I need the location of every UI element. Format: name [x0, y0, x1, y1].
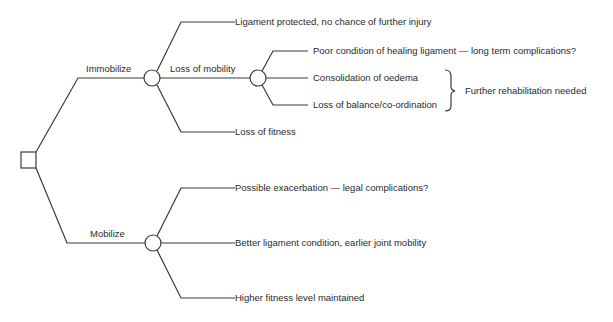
label-further-rehabilitation: Further rehabilitation needed [465, 85, 586, 96]
branch-immobilize [36, 78, 144, 152]
chance-node-immobilize [144, 70, 160, 86]
label-better-ligament: Better ligament condition, earlier joint… [235, 237, 426, 248]
label-exacerbation: Possible exacerbation — legal complicati… [235, 182, 428, 193]
chance-node-loss-of-mobility [250, 70, 266, 86]
label-higher-fitness: Higher fitness level maintained [235, 292, 364, 303]
label-ligament-protected: Ligament protected, no chance of further… [235, 16, 431, 27]
branch-exacerbation [157, 188, 235, 236]
decision-node [21, 152, 36, 168]
branch-loss-of-balance [262, 85, 308, 105]
label-loss-of-balance: Loss of balance/co-ordination [313, 99, 437, 110]
branch-poor-condition [262, 51, 308, 71]
bracket-brace [445, 70, 455, 111]
label-loss-of-mobility: Loss of mobility [170, 63, 235, 74]
chance-node-mobilize [145, 235, 161, 251]
label-loss-of-fitness: Loss of fitness [235, 126, 296, 137]
label-poor-condition: Poor condition of healing ligament — lon… [313, 45, 576, 56]
label-immobilize: Immobilize [86, 63, 131, 74]
label-mobilize: Mobilize [90, 228, 125, 239]
label-consolidation: Consolidation of oedema [313, 72, 418, 83]
branch-higher-fitness [157, 250, 235, 298]
branch-loss-of-fitness [157, 85, 235, 132]
